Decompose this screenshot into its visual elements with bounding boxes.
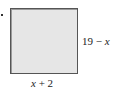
bottom-side-number: 2 [48, 77, 54, 89]
square-shape [10, 8, 78, 74]
bottom-side-variable: x [31, 77, 36, 89]
right-side-variable: x [105, 35, 110, 47]
right-side-number: 19 [82, 35, 93, 47]
right-side-operator: − [96, 35, 102, 47]
bottom-side-operator: + [39, 77, 45, 89]
bottom-side-label: x + 2 [31, 78, 53, 89]
right-side-label: 19 − x [82, 36, 110, 47]
bullet-mark [1, 14, 3, 16]
